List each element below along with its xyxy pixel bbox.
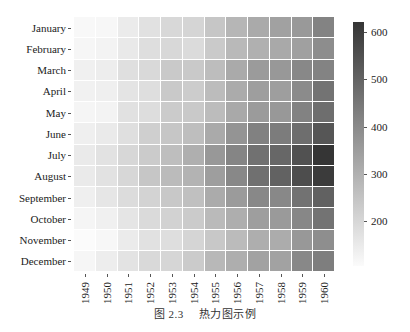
heatmap-cell	[205, 230, 227, 251]
heatmap-cell	[226, 187, 248, 208]
heatmap-cell	[292, 230, 314, 251]
x-tick-mark	[107, 274, 108, 277]
heatmap-cell	[96, 208, 118, 229]
heatmap-cell	[292, 166, 314, 187]
colorbar-tick-label: 300	[371, 168, 388, 180]
heatmap-cell	[292, 145, 314, 166]
heatmap-cell	[292, 102, 314, 123]
heatmap-cell	[270, 166, 292, 187]
y-tick-label: August	[34, 170, 66, 182]
y-tick-mark	[68, 134, 71, 135]
heatmap-cell	[205, 208, 227, 229]
y-tick-mark	[68, 198, 71, 199]
colorbar-tick-mark	[364, 79, 367, 80]
heatmap-cell	[226, 60, 248, 81]
heatmap-cell	[270, 17, 292, 38]
heatmap-cell	[248, 102, 270, 123]
heatmap-cell	[161, 145, 183, 166]
heatmap-cell	[226, 81, 248, 102]
heatmap-cell	[161, 208, 183, 229]
heatmap-cell	[248, 145, 270, 166]
heatmap-cell	[313, 166, 335, 187]
heatmap-cell	[96, 230, 118, 251]
y-tick-mark	[68, 240, 71, 241]
heatmap-cell	[139, 81, 161, 102]
heatmap-cell	[96, 145, 118, 166]
heatmap-cell	[270, 102, 292, 123]
y-tick-mark	[68, 176, 71, 177]
caption-figure-number: 图 2.3	[154, 308, 184, 320]
heatmap-cell	[139, 166, 161, 187]
heatmap-cell	[313, 187, 335, 208]
colorbar	[353, 22, 364, 266]
heatmap-cell	[248, 38, 270, 59]
x-tick-label: 1949	[79, 282, 91, 304]
heatmap-cell	[139, 38, 161, 59]
heatmap-cell	[248, 17, 270, 38]
heatmap-cell	[205, 145, 227, 166]
heatmap-cell	[161, 38, 183, 59]
y-tick-label: April	[43, 85, 66, 97]
heatmap-cell	[183, 17, 205, 38]
heatmap-cell	[226, 230, 248, 251]
heatmap-cell	[205, 102, 227, 123]
heatmap-figure: JanuaryFebruaryMarchAprilMayJuneJulyAugu…	[0, 0, 410, 332]
y-tick-label: February	[26, 43, 66, 55]
heatmap-cell	[118, 187, 140, 208]
heatmap-cell	[118, 38, 140, 59]
x-tick-mark	[302, 274, 303, 277]
heatmap-cell	[205, 123, 227, 144]
heatmap-cell	[161, 17, 183, 38]
colorbar-tick-mark	[364, 32, 367, 33]
heatmap-cell	[74, 187, 96, 208]
y-tick-mark	[68, 113, 71, 114]
heatmap-cell	[96, 166, 118, 187]
y-tick-label: May	[46, 107, 66, 119]
heatmap-cell	[74, 166, 96, 187]
heatmap-cell	[161, 60, 183, 81]
heatmap-cell	[139, 102, 161, 123]
heatmap-cell	[118, 102, 140, 123]
heatmap-cell	[313, 230, 335, 251]
heatmap-cell	[226, 208, 248, 229]
heatmap-cell	[183, 60, 205, 81]
heatmap-cell	[118, 145, 140, 166]
x-tick-mark	[172, 274, 173, 277]
heatmap-cell	[74, 123, 96, 144]
y-tick-mark	[68, 70, 71, 71]
heatmap-cell	[183, 208, 205, 229]
heatmap-cell	[139, 17, 161, 38]
x-tick-label: 1955	[209, 282, 221, 304]
heatmap-cell	[292, 187, 314, 208]
heatmap-cell	[270, 38, 292, 59]
y-tick-mark	[68, 49, 71, 50]
heatmap-cell	[118, 81, 140, 102]
heatmap-cell	[226, 123, 248, 144]
heatmap-cell	[74, 208, 96, 229]
heatmap-cell	[292, 208, 314, 229]
heatmap-cell	[74, 145, 96, 166]
heatmap-cell	[313, 251, 335, 272]
y-tick-label: March	[37, 64, 66, 76]
y-tick-label: June	[46, 128, 66, 140]
heatmap-cell	[292, 81, 314, 102]
x-tick-mark	[237, 274, 238, 277]
heatmap-cell	[96, 187, 118, 208]
heatmap-cell	[183, 251, 205, 272]
heatmap-cell	[270, 187, 292, 208]
heatmap-cell	[96, 38, 118, 59]
heatmap-cell	[139, 145, 161, 166]
x-tick-mark	[324, 274, 325, 277]
heatmap-cell	[313, 102, 335, 123]
heatmap-cell	[161, 81, 183, 102]
heatmap-cell	[161, 102, 183, 123]
heatmap-cell	[270, 81, 292, 102]
colorbar-tick-label: 600	[371, 26, 388, 38]
heatmap-cell	[313, 145, 335, 166]
heatmap-cell	[161, 251, 183, 272]
heatmap-cell	[183, 230, 205, 251]
heatmap-cell	[118, 17, 140, 38]
heatmap-cell	[205, 17, 227, 38]
heatmap-cell	[270, 145, 292, 166]
heatmap-cell	[270, 123, 292, 144]
